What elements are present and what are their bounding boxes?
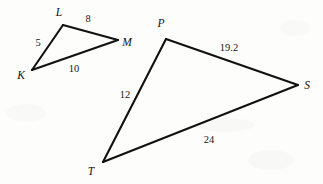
vertex-label-k: K	[16, 69, 26, 81]
edge-length-lm: 8	[85, 13, 90, 24]
edge-length-pt: 12	[120, 89, 131, 100]
vertex-label-l: L	[55, 6, 62, 18]
vertex-label-m: M	[121, 36, 133, 48]
edge-length-kl: 5	[35, 37, 40, 48]
edge-lm	[63, 25, 118, 40]
vertex-label-t: T	[88, 165, 96, 177]
vertex-label-s: S	[304, 79, 310, 91]
edge-length-ps: 19.2	[220, 42, 238, 53]
edge-length-ts: 24	[204, 134, 215, 145]
geometry-canvas: K L M 5 8 10 P S T 19.2 24 12	[0, 0, 323, 184]
edge-ts	[103, 85, 298, 162]
edge-length-km: 10	[69, 63, 80, 74]
geometry-figure: K L M 5 8 10 P S T 19.2 24 12	[0, 0, 323, 184]
triangle-pst: P S T 19.2 24 12	[88, 17, 310, 177]
edge-pt	[103, 39, 166, 162]
triangle-klm: K L M 5 8 10	[16, 6, 133, 81]
vertex-label-p: P	[156, 17, 164, 29]
